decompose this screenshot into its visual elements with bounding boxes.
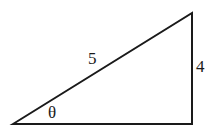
opposite-side-label: 4 <box>196 57 205 76</box>
hypotenuse-label: 5 <box>88 49 97 68</box>
angle-theta-label: θ <box>48 103 56 122</box>
triangle-diagram: 5 4 θ <box>0 0 214 139</box>
right-triangle <box>13 13 192 124</box>
